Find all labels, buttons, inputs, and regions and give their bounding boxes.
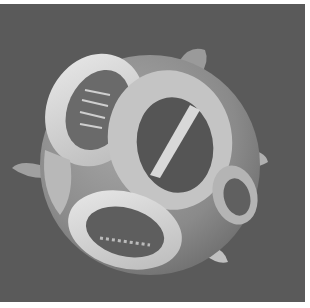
micrograph-image <box>0 4 305 302</box>
coccosphere-illustration <box>0 4 305 302</box>
